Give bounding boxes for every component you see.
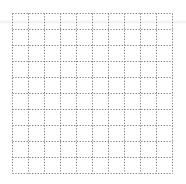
worksheet-page (0, 0, 186, 184)
grid-lines (12, 13, 174, 175)
dotted-grid (12, 13, 174, 175)
